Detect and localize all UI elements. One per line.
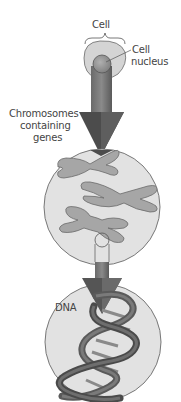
chromosomes-label-line2: containing [20, 120, 71, 131]
cell-nucleus-label-line1: Cell [132, 44, 150, 55]
chromosomes-label-line3: genes [33, 132, 62, 143]
dna-label: DNA [55, 302, 76, 313]
cell-label: Cell [92, 19, 110, 30]
cell-nucleus-label-line2: nucleus [131, 56, 168, 67]
chromosomes-label-line1: Chromosomes [9, 108, 78, 119]
cell-nucleus-shape [93, 55, 111, 73]
arrow-cell-to-chromosomes-icon [79, 66, 124, 156]
